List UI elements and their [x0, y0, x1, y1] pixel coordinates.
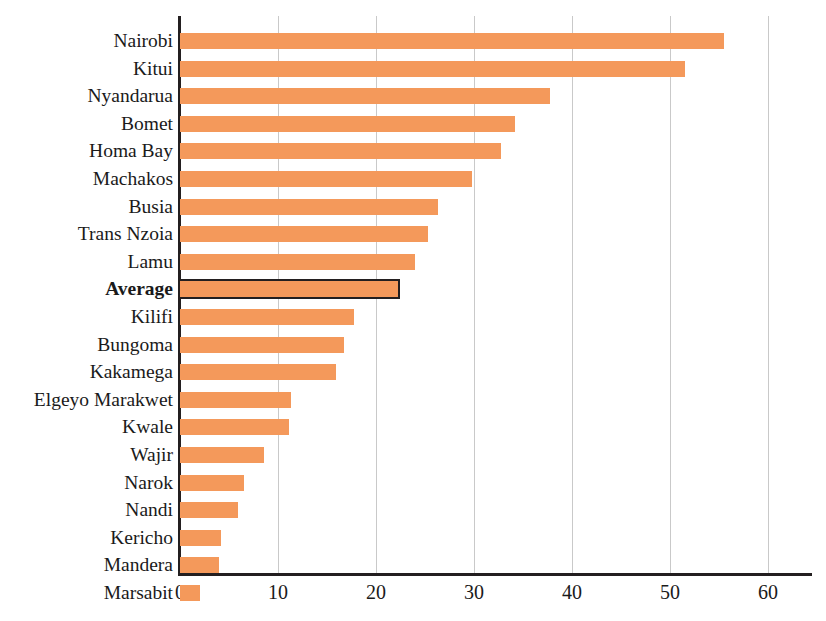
bar-row: Trans Nzoia	[0, 223, 826, 251]
category-label: Bungoma	[0, 334, 173, 356]
bar	[180, 254, 415, 270]
bar	[180, 116, 515, 132]
bar-row: Narok	[0, 472, 826, 500]
bar-row: Average	[0, 278, 826, 306]
category-label: Average	[0, 278, 173, 300]
category-label: Homa Bay	[0, 140, 173, 162]
category-label: Trans Nzoia	[0, 223, 173, 245]
bar-row: Lamu	[0, 251, 826, 279]
bar-row: Nairobi	[0, 30, 826, 58]
bar-row: Mandera	[0, 554, 826, 582]
bar	[180, 585, 200, 601]
bar-row: Kilifi	[0, 306, 826, 334]
bar-row: Busia	[0, 196, 826, 224]
bar-row: Nandi	[0, 499, 826, 527]
category-label: Wajir	[0, 444, 173, 466]
bar	[180, 199, 438, 215]
bar	[180, 309, 354, 325]
bar-row: Kericho	[0, 527, 826, 555]
bar-chart: 0102030405060 NairobiKituiNyandaruaBomet…	[0, 0, 826, 621]
category-label: Kakamega	[0, 361, 173, 383]
bar	[180, 502, 238, 518]
category-label: Kwale	[0, 416, 173, 438]
bar	[180, 171, 472, 187]
bar	[180, 33, 724, 49]
category-label: Nandi	[0, 499, 173, 521]
bar-row: Wajir	[0, 444, 826, 472]
plot-area: 0102030405060 NairobiKituiNyandaruaBomet…	[0, 0, 826, 621]
category-label: Marsabit	[0, 582, 173, 604]
category-label: Kilifi	[0, 306, 173, 328]
bar-row: Kakamega	[0, 361, 826, 389]
category-label: Elgeyo Marakwet	[0, 389, 173, 411]
category-label: Nairobi	[0, 30, 173, 52]
category-label: Kitui	[0, 58, 173, 80]
category-label: Machakos	[0, 168, 173, 190]
category-label: Nyandarua	[0, 85, 173, 107]
bar	[180, 475, 244, 491]
bar-row: Machakos	[0, 168, 826, 196]
bar	[180, 61, 685, 77]
category-label: Narok	[0, 472, 173, 494]
bar	[180, 392, 291, 408]
bar-row: Elgeyo Marakwet	[0, 389, 826, 417]
category-label: Kericho	[0, 527, 173, 549]
bar-row: Homa Bay	[0, 140, 826, 168]
bar	[180, 364, 336, 380]
category-label: Lamu	[0, 251, 173, 273]
bar-row: Marsabit	[0, 582, 826, 610]
category-label: Busia	[0, 196, 173, 218]
bar	[180, 143, 501, 159]
bar	[180, 88, 550, 104]
bar-row: Bomet	[0, 113, 826, 141]
bar	[180, 419, 289, 435]
category-label: Mandera	[0, 554, 173, 576]
bar	[180, 226, 428, 242]
category-label: Bomet	[0, 113, 173, 135]
bar-row: Kitui	[0, 58, 826, 86]
bar	[180, 530, 221, 546]
bar	[178, 279, 400, 299]
bar-row: Nyandarua	[0, 85, 826, 113]
bar-row: Kwale	[0, 416, 826, 444]
bar	[180, 557, 219, 573]
bar	[180, 447, 264, 463]
bar-row: Bungoma	[0, 334, 826, 362]
bar	[180, 337, 344, 353]
